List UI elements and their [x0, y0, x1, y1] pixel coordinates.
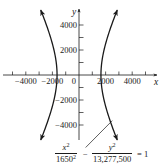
x-fraction: x2 16502 — [55, 143, 77, 163]
x-denominator: 16502 — [55, 155, 77, 164]
y-denominator: 13,277,500 — [92, 155, 132, 164]
equals-one: = 1 — [137, 150, 148, 159]
x-numerator: x2 — [62, 143, 71, 152]
minus-sign: − — [83, 150, 88, 159]
equation: x2 16502 − y2 13,277,500 = 1 — [0, 0, 162, 167]
y-fraction: y2 13,277,500 — [92, 143, 132, 163]
y-numerator: y2 — [108, 143, 117, 152]
